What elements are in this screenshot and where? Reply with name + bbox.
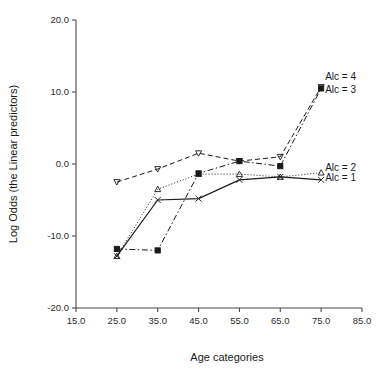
series-line-0 xyxy=(117,177,321,256)
y-tick-label: 10.0 xyxy=(51,86,70,97)
axis-titles-layer: Age categories Log Odds (the Linear pred… xyxy=(7,85,264,363)
y-tick-label: 0.0 xyxy=(56,158,69,169)
series-label-alc-2: Alc = 2 xyxy=(325,162,356,173)
x-tick-label: 55.0 xyxy=(230,315,249,326)
series-alc-4 xyxy=(114,85,324,185)
series-alc-1 xyxy=(114,174,324,259)
series-label-alc-1: Alc = 1 xyxy=(325,172,356,183)
x-tick-label: 15.0 xyxy=(67,315,86,326)
y-axis-title: Log Odds (the Linear predictors) xyxy=(7,85,19,243)
chart-container: 20.010.00.0-10.0-20.015.025.035.045.055.… xyxy=(0,0,379,372)
series-labels-layer: Alc = 1Alc = 2Alc = 3Alc = 4 xyxy=(325,71,356,183)
series-label-alc-4: Alc = 4 xyxy=(325,71,356,82)
data-point-triangle-up xyxy=(318,170,324,175)
y-tick-label: 20.0 xyxy=(51,14,70,25)
series-line-3 xyxy=(117,87,321,182)
y-tick-label: -10.0 xyxy=(47,230,69,241)
x-tick-label: 75.0 xyxy=(312,315,331,326)
series-layer xyxy=(114,85,324,260)
data-point-triangle-down xyxy=(114,180,120,185)
data-point-square xyxy=(196,171,201,176)
series-alc-2 xyxy=(114,170,324,259)
x-tick-label: 65.0 xyxy=(271,315,290,326)
y-tick-label: -20.0 xyxy=(47,302,69,313)
x-tick-label: 25.0 xyxy=(108,315,127,326)
data-point-square xyxy=(114,246,119,251)
data-point-square xyxy=(278,164,283,169)
x-tick-label: 35.0 xyxy=(148,315,167,326)
x-tick-label: 85.0 xyxy=(353,315,372,326)
x-axis-title: Age categories xyxy=(190,351,264,363)
series-alc-3 xyxy=(114,86,323,253)
series-line-2 xyxy=(117,88,321,250)
data-point-square xyxy=(155,248,160,253)
log-odds-line-chart: 20.010.00.0-10.0-20.015.025.035.045.055.… xyxy=(0,0,379,372)
x-tick-label: 45.0 xyxy=(189,315,208,326)
series-label-alc-3: Alc = 3 xyxy=(325,84,356,95)
